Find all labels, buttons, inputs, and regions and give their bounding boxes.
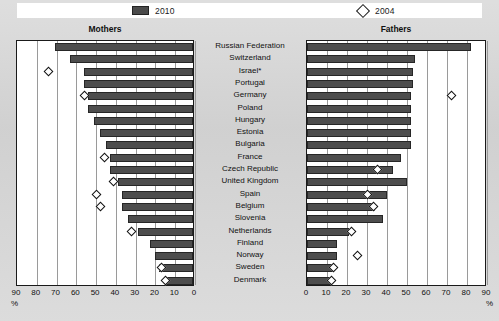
chart-row <box>307 201 485 213</box>
chart-row <box>17 226 193 238</box>
panel-title-fathers: Fathers <box>306 24 486 34</box>
axis-tick: 0 <box>192 288 196 297</box>
category-label: Estonia <box>196 126 304 138</box>
chart-row <box>307 41 485 53</box>
chart-row <box>307 53 485 65</box>
bar-2010 <box>307 178 407 186</box>
bar-2010 <box>307 154 401 162</box>
bar-2010 <box>307 55 415 63</box>
bar-2010 <box>55 43 193 51</box>
chart-row <box>307 66 485 78</box>
chart-row <box>307 262 485 274</box>
chart-row <box>17 139 193 151</box>
category-label: Portugal <box>196 77 304 89</box>
chart-row <box>17 78 193 90</box>
axis-unit-left: % <box>11 299 18 308</box>
chart-row <box>17 201 193 213</box>
chart-row <box>17 176 193 188</box>
gridline <box>487 41 488 285</box>
chart-row <box>17 238 193 250</box>
category-label: Netherlands <box>196 225 304 237</box>
bar-2010 <box>307 43 471 51</box>
chart-page: 2010 2004 Mothers Fathers Russian Federa… <box>0 0 499 321</box>
axis-tick: 90 <box>12 288 21 297</box>
axis-tick: 60 <box>71 288 80 297</box>
bar-2010 <box>110 166 193 174</box>
legend-entry-2004: 2004 <box>357 5 395 17</box>
axis-tick: 40 <box>110 288 119 297</box>
plot-area-fathers <box>306 40 486 286</box>
category-label: Poland <box>196 102 304 114</box>
bar-2010 <box>307 68 413 76</box>
bar-2010 <box>100 129 193 137</box>
axis-tick: 70 <box>442 288 451 297</box>
marker-2004 <box>446 91 456 101</box>
bar-2010 <box>122 191 193 199</box>
chart-row <box>17 53 193 65</box>
chart-row <box>307 152 485 164</box>
bar-2010 <box>307 252 337 260</box>
bar-2010 <box>307 203 375 211</box>
axis-tick: 60 <box>422 288 431 297</box>
bar-2010 <box>307 92 411 100</box>
chart-row <box>17 189 193 201</box>
bar-2010 <box>110 154 193 162</box>
chart-row <box>307 238 485 250</box>
bar-2010 <box>307 80 413 88</box>
category-label: Spain <box>196 188 304 200</box>
x-axis-mothers: 9080706050403020100 <box>16 288 194 300</box>
bar-2010 <box>307 191 387 199</box>
legend-entry-2010: 2010 <box>132 6 175 16</box>
category-label: Bulgaria <box>196 138 304 150</box>
legend-label-2004: 2004 <box>375 6 395 16</box>
chart-row <box>307 78 485 90</box>
bar-2010 <box>307 141 411 149</box>
category-label: Germany <box>196 89 304 101</box>
bar-2010 <box>106 141 193 149</box>
bar-2010 <box>84 80 193 88</box>
bar-2010 <box>118 178 193 186</box>
chart-row <box>307 90 485 102</box>
bar-2010 <box>307 228 349 236</box>
category-label-column: Russian FederationSwitzerlandIsrael*Port… <box>196 40 304 286</box>
marker-2004 <box>91 189 101 199</box>
chart-row <box>307 189 485 201</box>
axis-tick: 40 <box>382 288 391 297</box>
category-label: United Kingdom <box>196 175 304 187</box>
bar-2010 <box>84 68 193 76</box>
chart-row <box>17 275 193 287</box>
panel-title-mothers: Mothers <box>16 24 194 34</box>
axis-tick: 90 <box>482 288 491 297</box>
axis-tick: 0 <box>304 288 308 297</box>
category-label: France <box>196 151 304 163</box>
bar-2010 <box>138 228 193 236</box>
chart-row <box>17 41 193 53</box>
marker-2004 <box>95 202 105 212</box>
axis-tick: 30 <box>130 288 139 297</box>
category-label: Israel* <box>196 65 304 77</box>
chart-row <box>17 127 193 139</box>
marker-2004 <box>99 152 109 162</box>
bar-2010 <box>307 240 337 248</box>
plot-area-mothers <box>16 40 194 286</box>
chart-row <box>307 103 485 115</box>
bar-2010 <box>307 215 383 223</box>
bar-2010 <box>150 240 194 248</box>
marker-2004 <box>44 66 54 76</box>
axis-tick: 10 <box>322 288 331 297</box>
category-label: Norway <box>196 249 304 261</box>
chart-row <box>17 152 193 164</box>
bar-2010 <box>307 129 411 137</box>
bar-2010 <box>88 105 193 113</box>
chart-row <box>17 66 193 78</box>
chart-row <box>307 213 485 225</box>
category-label: Hungary <box>196 114 304 126</box>
chart-row <box>307 139 485 151</box>
diamond-marker-icon <box>356 3 370 17</box>
chart-row <box>307 226 485 238</box>
marker-2004 <box>352 251 362 261</box>
bar-rows-mothers <box>17 41 193 285</box>
chart-row <box>307 275 485 287</box>
chart-row <box>17 164 193 176</box>
category-label: Czech Republic <box>196 163 304 175</box>
